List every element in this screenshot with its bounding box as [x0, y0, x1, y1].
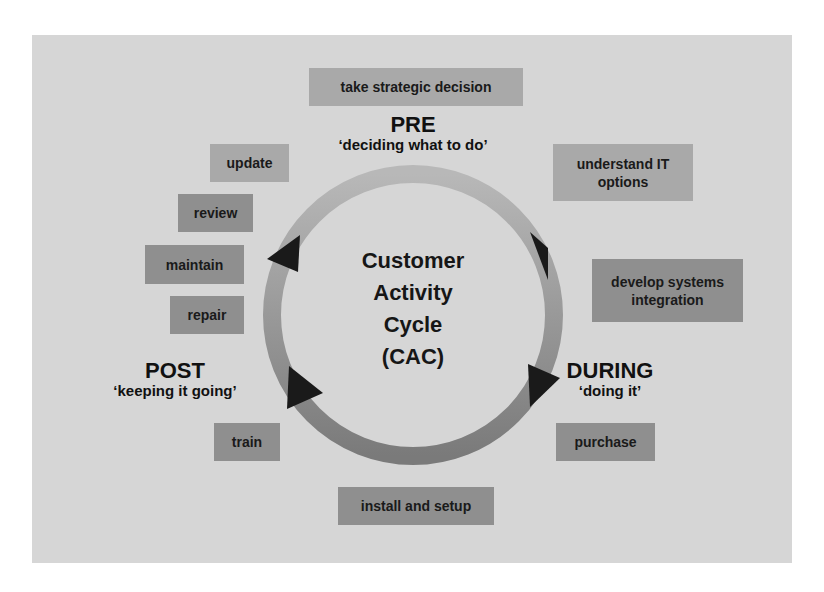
center-title: Customer Activity Cycle (CAC) — [313, 245, 513, 373]
activity-review: review — [178, 194, 253, 232]
phase-pre-title: PRE — [290, 114, 536, 136]
activity-take-strategic-decision: take strategic decision — [309, 68, 523, 106]
center-line-1: Customer — [313, 245, 513, 277]
phase-during: DURING ‘doing it’ — [560, 360, 660, 399]
activity-install-and-setup: install and setup — [338, 487, 494, 525]
center-line-4: (CAC) — [313, 341, 513, 373]
phase-during-subtitle: ‘doing it’ — [560, 382, 660, 399]
phase-post: POST ‘keeping it going’ — [80, 360, 270, 399]
activity-understand-it-options: understand IT options — [553, 144, 693, 201]
activity-repair: repair — [170, 296, 244, 334]
phase-pre: PRE ‘deciding what to do’ — [290, 114, 536, 153]
activity-maintain: maintain — [145, 245, 244, 284]
phase-post-subtitle: ‘keeping it going’ — [80, 382, 270, 399]
activity-develop-systems-integration: develop systems integration — [592, 259, 743, 322]
phase-during-title: DURING — [560, 360, 660, 382]
activity-train: train — [214, 423, 280, 461]
phase-pre-subtitle: ‘deciding what to do’ — [290, 136, 536, 153]
activity-purchase: purchase — [556, 423, 655, 461]
phase-post-title: POST — [80, 360, 270, 382]
center-line-2: Activity — [313, 277, 513, 309]
center-line-3: Cycle — [313, 309, 513, 341]
activity-update: update — [210, 144, 289, 182]
